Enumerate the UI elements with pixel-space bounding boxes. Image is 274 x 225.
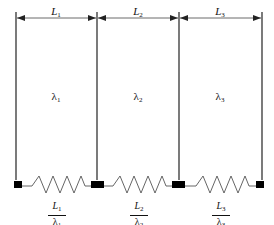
resistor-network <box>14 176 264 193</box>
conductivity-label-1: λ1 <box>41 90 71 104</box>
node-3 <box>172 181 185 188</box>
node-2 <box>91 181 104 188</box>
resistor-2 <box>104 176 172 193</box>
resistance-label-2: L2 λ2 <box>124 200 154 225</box>
resistor-3 <box>185 176 256 193</box>
length-label-3: L3 <box>205 6 235 21</box>
resistor-1 <box>22 176 91 193</box>
length-label-1: L1 <box>41 6 71 21</box>
node-1 <box>14 181 22 188</box>
wall-diagram <box>0 0 274 225</box>
conductivity-label-3: λ3 <box>205 90 235 104</box>
node-4 <box>256 181 264 188</box>
length-label-2: L2 <box>123 6 153 21</box>
resistance-label-3: L3 λ3 <box>206 200 236 225</box>
resistance-label-1: L1 λ1 <box>42 200 72 225</box>
conductivity-label-2: λ2 <box>123 90 153 104</box>
